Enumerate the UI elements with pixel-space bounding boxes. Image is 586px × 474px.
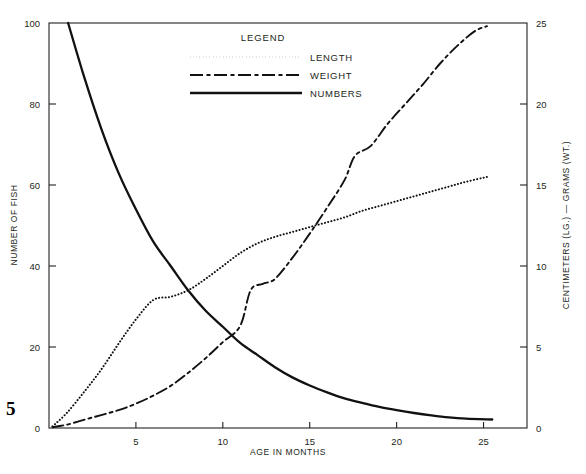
y-left-tick-label: 40 (29, 261, 40, 272)
y-right-axis-title: CENTIMETERS (LG.) — GRAMS (WT.) (561, 141, 571, 309)
y-left-tick-label: 20 (29, 342, 40, 353)
y-right-axis-ticks: 0510152025 (520, 18, 547, 434)
fish-growth-line-chart: 510152025 020406080100 0510152025 AGE IN… (0, 0, 586, 474)
chart-legend: LEGEND LENGTHWEIGHTNUMBERS (190, 32, 362, 99)
x-tick-label: 5 (133, 436, 138, 447)
y-right-tick-label: 10 (536, 261, 547, 272)
y-left-tick-label: 80 (29, 99, 40, 110)
legend-title: LEGEND (241, 32, 285, 43)
y-right-tick-label: 0 (536, 423, 541, 434)
legend-label-weight: WEIGHT (310, 70, 352, 81)
y-left-tick-label: 0 (35, 423, 40, 434)
y-right-tick-label: 15 (536, 180, 547, 191)
x-axis-ticks: 510152025 (133, 422, 489, 447)
x-tick-label: 25 (478, 436, 489, 447)
x-tick-label: 10 (218, 436, 229, 447)
legend-label-length: LENGTH (310, 52, 353, 63)
y-right-tick-label: 20 (536, 99, 547, 110)
series-line-numbers (68, 23, 492, 420)
series-line-length (52, 177, 487, 426)
y-right-tick-label: 25 (536, 18, 547, 29)
page-number: 5 (6, 398, 16, 420)
y-left-tick-label: 60 (29, 180, 40, 191)
data-series-group (52, 23, 492, 427)
x-axis-title: AGE IN MONTHS (250, 447, 326, 457)
y-right-tick-label: 5 (536, 342, 541, 353)
plot-frame (49, 23, 527, 428)
figure-container: 5 510152025 020406080100 0510152025 AGE … (0, 0, 586, 474)
series-line-weight (52, 26, 487, 427)
y-left-tick-label: 100 (24, 18, 40, 29)
y-left-axis-ticks: 020406080100 (24, 18, 56, 434)
x-tick-label: 20 (391, 436, 402, 447)
legend-label-numbers: NUMBERS (310, 88, 362, 99)
legend-entries: LENGTHWEIGHTNUMBERS (190, 52, 362, 99)
y-left-axis-title: NUMBER OF FISH (9, 184, 19, 265)
x-tick-label: 15 (304, 436, 315, 447)
